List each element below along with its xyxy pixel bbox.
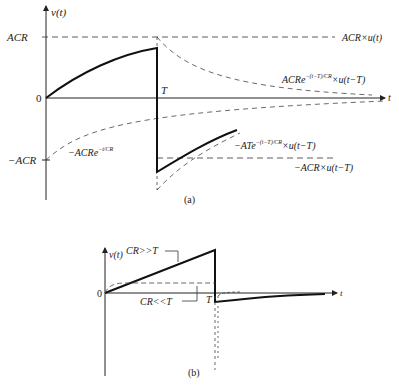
large-cr-label: CR>>T [126, 245, 159, 256]
panel-a-y-label: v(t) [51, 6, 67, 19]
small-cr-label: CR<<T [140, 296, 173, 307]
panel-a-caption: (a) [184, 194, 195, 206]
panel-a-neg-acr-label: −ACR [8, 154, 36, 166]
panel-b-x-label: t [340, 288, 343, 298]
neg-shifted-label: −ATe−(t−T)/CR×u(t−T) [234, 139, 316, 152]
panel-a: v(t) ACR 0 T t −ACR ACR×u(t) ACRe−(t−T)/… [6, 6, 391, 206]
panel-b-y-label: v(t) [109, 249, 124, 261]
large-cr-response [105, 250, 325, 302]
acr-decay-curve [157, 37, 372, 95]
panel-b-caption: (b) [188, 367, 200, 379]
panel-b-origin-label: 0 [97, 288, 102, 299]
neg-shifted-exp-curve [157, 133, 240, 190]
panel-a-x-label: t [388, 92, 391, 103]
neg-step-label: −ACR×u(t−T) [294, 162, 354, 174]
panel-a-t-label: T [161, 84, 168, 96]
small-cr-response [105, 283, 215, 293]
large-cr-leader [165, 251, 178, 262]
neg-exp-label: −ACRe−t/CR [68, 146, 113, 158]
panel-a-acr-label: ACR [6, 31, 28, 43]
decay-label: ACRe−(t−T)/CR×u(t−T) [281, 73, 366, 86]
panel-b-t-label: T [206, 294, 213, 305]
panel-a-origin-label: 0 [36, 92, 42, 104]
panel-b: v(t) 0 T t CR>>T CR<<T (b) [97, 245, 343, 379]
diagram-canvas: v(t) ACR 0 T t −ACR ACR×u(t) ACRe−(t−T)/… [0, 0, 399, 388]
step-label: ACR×u(t) [341, 32, 383, 44]
